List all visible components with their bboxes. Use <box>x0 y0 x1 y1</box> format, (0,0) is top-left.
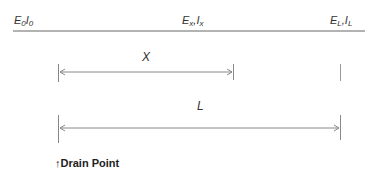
label-e0-i0: E0I0 <box>14 14 33 28</box>
label-i0-sub: 0 <box>29 19 33 28</box>
drain-point-annotation: ↑Drain Point <box>55 157 119 169</box>
x-dimension-label: X <box>142 50 150 64</box>
label-el-il: EL,IL <box>330 14 352 28</box>
drain-point-label: Drain Point <box>61 157 120 169</box>
label-il-sub: L <box>348 19 352 28</box>
label-ex-ix: Ex,Ix <box>182 14 203 28</box>
label-ix-sub: x <box>199 19 203 28</box>
l-dimension-label: L <box>197 99 204 113</box>
